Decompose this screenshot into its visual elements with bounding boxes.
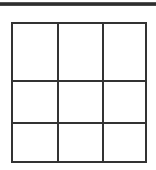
grid-cell-r2c2-text: [59, 82, 102, 122]
grid-cell-r3c3-text: [104, 124, 145, 161]
grid-cell-r1c3-text: [104, 24, 145, 80]
grid-cell-r3c1-text: [13, 124, 57, 161]
grid-cell-r3c3[interactable]: [104, 124, 145, 161]
grid-cell-r2c3[interactable]: [104, 82, 145, 124]
grid-cell-r2c3-text: [104, 82, 145, 122]
page-root: [0, 0, 156, 170]
grid-cell-r2c2[interactable]: [59, 82, 104, 124]
grid-cell-r2c1-text: [13, 82, 57, 122]
grid-cell-r1c2[interactable]: [59, 24, 104, 82]
grid-cell-r1c2-text: [59, 24, 102, 80]
horizontal-rule-shadow: [0, 5, 156, 6]
grid-cell-r3c2[interactable]: [59, 124, 104, 161]
grid-cell-r1c1[interactable]: [13, 24, 59, 82]
grid-cell-r3c1[interactable]: [13, 124, 59, 161]
grid-cell-r2c1[interactable]: [13, 82, 59, 124]
grid-cell-r3c2-text: [59, 124, 102, 161]
grid-cell-r1c1-text: [13, 24, 57, 80]
three-by-three-grid: [11, 22, 147, 163]
grid-cell-r1c3[interactable]: [104, 24, 145, 82]
horizontal-rule: [0, 2, 156, 6]
horizontal-rule-highlight: [0, 2, 156, 3]
